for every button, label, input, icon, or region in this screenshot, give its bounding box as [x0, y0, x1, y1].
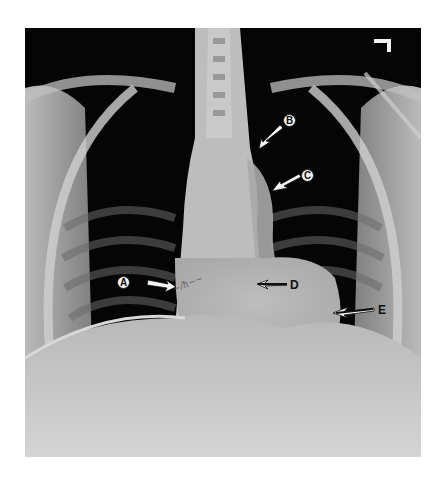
annotation-label-b: B [283, 114, 296, 127]
annotation-label-d: D [290, 279, 299, 291]
arrow-b-icon [259, 125, 283, 149]
annotation-label-a: A [117, 276, 130, 289]
arrow-c-icon [272, 174, 301, 191]
xray-film: A B C D E ~/ħ~~ [25, 28, 421, 457]
xray-image [25, 28, 421, 457]
annotation-label-e: E [378, 304, 386, 316]
annotation-label-c: C [301, 169, 314, 182]
side-marker-icon [374, 41, 389, 52]
